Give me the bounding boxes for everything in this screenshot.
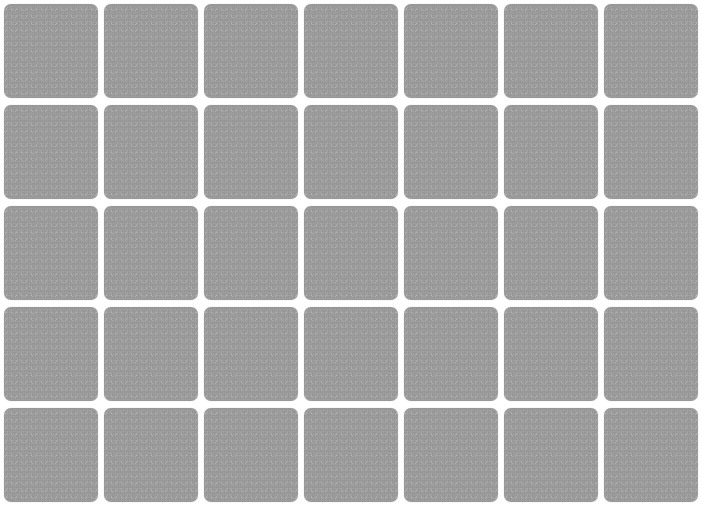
card-back-r4-c2[interactable] <box>104 307 198 401</box>
card-back-r4-c6[interactable] <box>504 307 598 401</box>
card-back-r5-c4[interactable] <box>304 408 398 502</box>
card-back-r3-c4[interactable] <box>304 206 398 300</box>
card-back-r4-c1[interactable] <box>4 307 98 401</box>
card-back-r5-c2[interactable] <box>104 408 198 502</box>
card-back-r2-c1[interactable] <box>4 105 98 199</box>
card-back-r1-c3[interactable] <box>204 4 298 98</box>
card-back-r1-c2[interactable] <box>104 4 198 98</box>
card-back-r3-c3[interactable] <box>204 206 298 300</box>
card-back-r2-c3[interactable] <box>204 105 298 199</box>
card-back-r2-c7[interactable] <box>604 105 698 199</box>
card-back-r1-c7[interactable] <box>604 4 698 98</box>
card-back-r1-c5[interactable] <box>404 4 498 98</box>
card-back-r3-c2[interactable] <box>104 206 198 300</box>
card-back-r2-c4[interactable] <box>304 105 398 199</box>
card-back-r1-c1[interactable] <box>4 4 98 98</box>
card-back-r4-c3[interactable] <box>204 307 298 401</box>
card-back-r2-c6[interactable] <box>504 105 598 199</box>
card-back-r5-c1[interactable] <box>4 408 98 502</box>
card-back-r3-c1[interactable] <box>4 206 98 300</box>
card-back-r2-c2[interactable] <box>104 105 198 199</box>
card-back-r3-c5[interactable] <box>404 206 498 300</box>
card-back-r1-c6[interactable] <box>504 4 598 98</box>
card-back-r5-c7[interactable] <box>604 408 698 502</box>
card-back-r1-c4[interactable] <box>304 4 398 98</box>
card-back-r3-c6[interactable] <box>504 206 598 300</box>
card-back-r4-c7[interactable] <box>604 307 698 401</box>
card-back-r5-c6[interactable] <box>504 408 598 502</box>
card-back-r3-c7[interactable] <box>604 206 698 300</box>
card-back-r4-c5[interactable] <box>404 307 498 401</box>
card-back-r2-c5[interactable] <box>404 105 498 199</box>
card-back-r4-c4[interactable] <box>304 307 398 401</box>
card-back-r5-c5[interactable] <box>404 408 498 502</box>
card-grid <box>4 4 698 502</box>
card-back-r5-c3[interactable] <box>204 408 298 502</box>
